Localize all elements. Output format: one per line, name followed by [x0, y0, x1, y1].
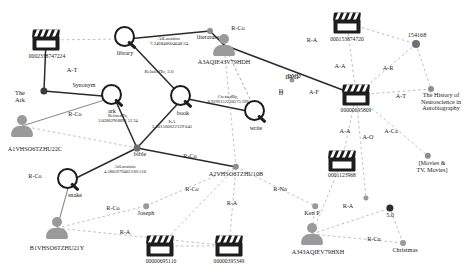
clapperboard-icon[interactable] — [147, 236, 174, 257]
graph-dot — [386, 204, 393, 211]
graph-dot — [363, 195, 368, 200]
graph-edge — [22, 126, 137, 148]
graph-edge — [57, 206, 146, 228]
graph-dot — [134, 145, 141, 152]
magnifier-icon[interactable] — [114, 26, 140, 52]
graph-dot-node[interactable] — [312, 203, 318, 209]
person-icon[interactable] — [212, 34, 236, 56]
magnifier-icon[interactable] — [244, 100, 270, 126]
graph-dot — [412, 40, 420, 48]
graph-dot-node[interactable] — [386, 204, 393, 211]
graph-dot — [143, 203, 149, 209]
graph-dot — [312, 203, 318, 209]
graph-dot — [233, 164, 239, 170]
graph-edge — [312, 234, 403, 243]
graph-edge — [390, 208, 403, 243]
graph-dot-node[interactable] — [412, 40, 420, 48]
graph-dot — [289, 77, 294, 82]
graph-dot — [425, 153, 431, 159]
clapperboard-icon[interactable] — [343, 85, 370, 106]
graph-dot-node[interactable] — [428, 86, 434, 92]
graph-edge — [57, 228, 229, 246]
graph-dot-node[interactable] — [425, 153, 431, 159]
magnifier-icon[interactable] — [57, 168, 83, 194]
graph-edge — [146, 167, 236, 206]
graph-dot — [40, 87, 47, 94]
graph-edge — [416, 44, 431, 89]
graph-edge — [224, 45, 356, 95]
magnifier-icon[interactable] — [101, 84, 127, 110]
graph-dot-node[interactable] — [143, 203, 149, 209]
graph-dot — [428, 86, 434, 92]
clapperboard-icon[interactable] — [329, 151, 356, 172]
graph-dot-node[interactable] — [40, 87, 47, 94]
magnifier-icon[interactable] — [170, 85, 196, 111]
graph-edge — [160, 167, 236, 246]
graph-edge — [236, 167, 315, 206]
graph-edge — [137, 148, 236, 167]
clapperboard-icon[interactable] — [33, 30, 60, 51]
graph-edge — [229, 167, 236, 246]
person-icon[interactable] — [300, 223, 324, 245]
graph-dot-node[interactable] — [363, 195, 368, 200]
graph-edge — [356, 95, 366, 198]
graph-dot — [400, 240, 406, 246]
clapperboard-icon[interactable] — [216, 236, 243, 257]
graph-dot-node[interactable] — [400, 240, 406, 246]
graph-dot-node[interactable] — [289, 77, 294, 82]
graph-dot-node[interactable] — [134, 145, 141, 152]
knowledge-graph-figure: A-TSynonymR-CoAtLocation 7.246848604048 … — [0, 0, 473, 276]
graph-dot-node[interactable] — [233, 164, 239, 170]
person-icon[interactable] — [45, 217, 69, 239]
clapperboard-icon[interactable] — [334, 13, 361, 34]
person-icon[interactable] — [10, 115, 34, 137]
